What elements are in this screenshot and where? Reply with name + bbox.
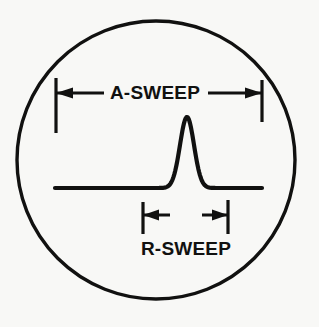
figure-root: A-SWEEP R-SWEEP	[0, 0, 319, 327]
oscilloscope-trace	[55, 117, 262, 188]
a-sweep-label: A-SWEEP	[110, 82, 200, 103]
r-sweep-arrowhead-right	[212, 210, 228, 221]
dimension-a-sweep: A-SWEEP	[56, 78, 262, 133]
r-sweep-label: R-SWEEP	[141, 238, 231, 259]
a-sweep-arrowhead-left	[56, 88, 73, 99]
dimension-r-sweep: R-SWEEP	[141, 200, 231, 259]
r-sweep-arrowhead-left	[143, 210, 159, 221]
scope-diagram: A-SWEEP R-SWEEP	[0, 0, 319, 327]
a-sweep-arrowhead-right	[245, 88, 262, 99]
